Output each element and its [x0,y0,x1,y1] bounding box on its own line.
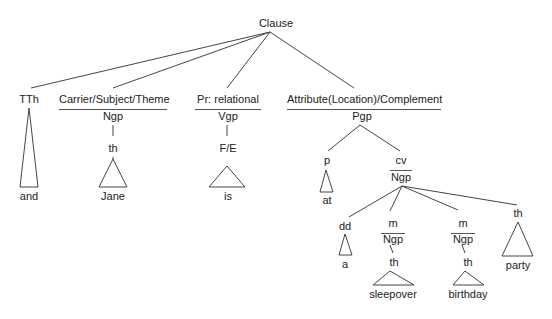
node-attribute-complement: Attribute(Location)/Complement [287,93,441,110]
node-ngp-cv: Ngp [391,171,411,184]
leaf-jane: Jane [101,190,125,203]
node-pr-relational: Pr: relational [195,93,261,110]
leaf-is: is [224,190,232,203]
node-fe: F/E [219,142,236,155]
node-m-1: m [381,217,405,234]
node-th-m1: th [389,256,398,269]
node-dd: dd [339,220,351,233]
node-tth: TTh [19,93,39,106]
node-m-2: m [451,217,475,234]
node-carrier-subject-theme: Carrier/Subject/Theme [59,93,167,110]
leaf-at: at [322,194,331,207]
leaf-and: and [20,190,38,203]
node-th-party: th [513,207,522,220]
tree-edges [0,0,552,319]
node-clause: Clause [259,17,293,30]
node-p: p [324,154,330,167]
node-pgp: Pgp [352,110,372,123]
node-ngp: Ngp [103,110,123,123]
node-th: th [108,142,117,155]
node-ngp-m2: Ngp [453,233,473,246]
node-vgp: Vgp [218,110,238,123]
leaf-a: a [342,258,348,271]
node-th-m2: th [463,256,472,269]
leaf-birthday: birthday [448,288,487,301]
leaf-sleepover: sleepover [369,288,417,301]
leaf-party: party [506,259,530,272]
node-ngp-m1: Ngp [383,233,403,246]
node-cv: cv [390,154,412,171]
